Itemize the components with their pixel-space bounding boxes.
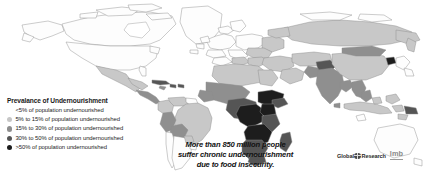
legend-item-0: <5% of population undernourished [7,106,123,115]
caption-line-1: More than 850 million people [168,140,303,150]
logo-word-research: Research [361,153,385,160]
legend-item-0-label: <5% of population undernourished [15,106,103,115]
legend-swatch-3 [7,136,12,141]
global-research-logo: Global Research lmb [337,150,403,160]
map-caption: More than 850 million people suffer chro… [168,140,303,171]
legend-item-4: >50% of population undernourished [7,143,123,152]
globe-icon [354,153,360,159]
logo-word-global: Global [337,153,354,160]
logo-wordmark: Global Research [337,153,386,160]
map-legend: Prevalance of Undernourishment <5% of po… [7,96,123,152]
caption-line-2: suffer chronic undernourishment [168,150,303,160]
legend-item-1: 5% to 15% of population undernourished [7,115,123,124]
legend-title: Prevalance of Undernourishment [7,96,123,105]
legend-item-1-label: 5% to 15% of population undernourished [15,115,120,124]
legend-item-2: 15% to 30% of population undernourished [7,124,123,133]
legend-swatch-4 [7,145,12,150]
legend-item-3: 30% to 50% of population undernourished [7,134,123,143]
legend-item-4-label: >50% of population undernourished [15,143,107,152]
legend-item-2-label: 15% to 30% of population undernourished [15,124,123,133]
map-figure: .c0{fill:#fdfdfd;} .c1{fill:#c8c8c8;} .c… [0,0,427,193]
caption-line-3: due to food insecurity. [168,160,303,170]
logo-sub-lmb: lmb [390,150,403,160]
legend-swatch-2 [7,126,12,131]
legend-swatch-1 [7,117,12,122]
legend-item-3-label: 30% to 50% of population undernourished [15,134,123,143]
